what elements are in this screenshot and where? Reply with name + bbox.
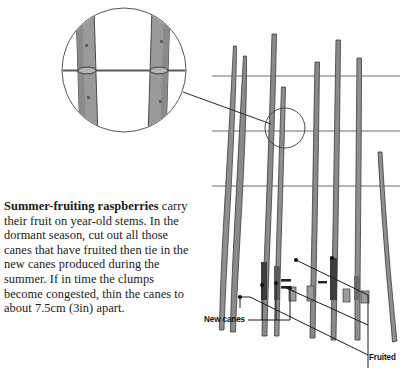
leader-dot xyxy=(294,258,298,262)
inset-tie-knot xyxy=(78,67,96,74)
leader-dot xyxy=(260,283,264,287)
caption-body: carry their fruit on year-old stems. In … xyxy=(4,199,189,315)
leader-dot xyxy=(330,256,334,260)
fruited-leader xyxy=(238,256,368,368)
inset-cane-node xyxy=(85,44,88,47)
inset-cane-node xyxy=(160,40,163,43)
inset-detail xyxy=(60,8,190,138)
inset-cane-node xyxy=(87,96,90,99)
inset-tie-knot xyxy=(150,67,168,74)
leader-dot xyxy=(238,295,242,299)
cut-cane-mark xyxy=(281,279,291,282)
cut-cane-mark xyxy=(318,281,327,283)
cane-base-segment xyxy=(354,276,360,300)
caption-text-block: Summer-fruiting raspberries carry their … xyxy=(4,199,196,316)
inset-cane-node xyxy=(159,100,162,103)
inset-connector-line xyxy=(183,92,271,124)
illustration-page: Summer-fruiting raspberries carry their … xyxy=(0,0,404,372)
leader-diagonal xyxy=(250,297,368,355)
raspberry-training-diagram xyxy=(0,0,404,372)
leader-dot xyxy=(274,281,278,285)
cane-stem xyxy=(378,152,397,342)
cane-stub xyxy=(343,289,350,302)
caption-lead-in: Summer-fruiting raspberries xyxy=(4,199,159,213)
label-new-canes: New canes xyxy=(204,314,245,324)
caption-paragraph: Summer-fruiting raspberries carry their … xyxy=(4,199,196,316)
label-fruited: Fruited xyxy=(369,352,396,362)
